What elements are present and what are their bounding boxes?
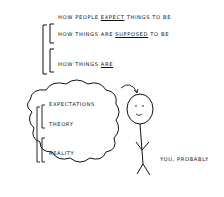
cloud-item-reality: Reality xyxy=(49,150,74,156)
inner-bracket-2 xyxy=(50,49,54,72)
cloud-bracket-1 xyxy=(42,105,45,128)
top-line-2: How things are supposed to be xyxy=(58,31,169,37)
top-line-3: How things are xyxy=(58,61,113,67)
cloud-item-expectations: Expectations xyxy=(49,101,95,107)
cloud-item-theory: Theory xyxy=(49,121,73,127)
left-eye xyxy=(135,105,137,107)
smile xyxy=(136,114,142,116)
drawing xyxy=(0,0,224,197)
top-line-1: How people expect things to be xyxy=(58,14,171,20)
cloud-outer-bracket xyxy=(37,107,40,162)
outer-bracket-top xyxy=(43,25,47,74)
stick-figure-body xyxy=(136,124,150,175)
inner-bracket-1 xyxy=(50,24,54,43)
right-eye xyxy=(142,105,144,107)
caption: You, probably xyxy=(160,156,209,162)
stick-figure-head xyxy=(127,94,153,124)
